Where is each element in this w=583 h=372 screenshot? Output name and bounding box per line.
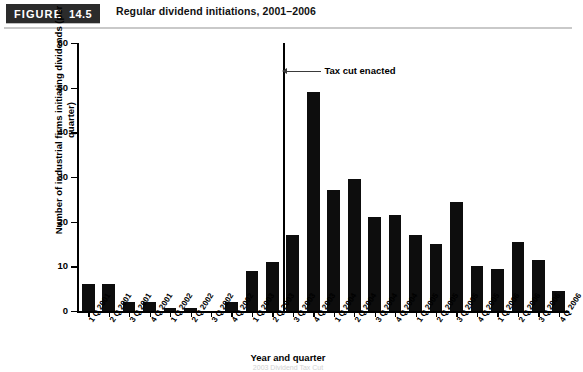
bar-series xyxy=(78,43,569,311)
y-axis-tick xyxy=(71,177,77,178)
figure-header: FIGURE 14.5 Regular dividend initiations… xyxy=(0,0,576,30)
y-axis-tick-label: 30 xyxy=(28,171,68,182)
tax-cut-annotation-label: Tax cut enacted xyxy=(324,65,395,76)
y-axis-tick-labels: 0102030405060 xyxy=(22,30,68,330)
bar xyxy=(82,284,95,311)
y-axis-tick-label: 60 xyxy=(28,37,68,48)
tax-cut-leader-line xyxy=(285,71,321,72)
tax-cut-marker-line xyxy=(283,43,284,312)
y-axis-tick xyxy=(71,311,77,312)
y-axis-tick-label: 40 xyxy=(28,126,68,137)
y-axis-tick-label: 0 xyxy=(28,305,68,316)
source-note: 2003 Dividend Tax Cut xyxy=(0,364,576,372)
figure-title: Regular dividend initiations, 2001–2006 xyxy=(116,5,316,17)
y-axis-tick xyxy=(71,43,77,44)
y-axis-tick xyxy=(71,88,77,89)
chart-plot-area: Number of industrial firms initiating di… xyxy=(0,30,576,372)
bar xyxy=(307,92,320,311)
y-axis-tick xyxy=(71,132,77,133)
y-axis-tick-label: 10 xyxy=(28,260,68,271)
x-axis-title: Year and quarter xyxy=(0,352,576,363)
y-axis-tick xyxy=(71,266,77,267)
y-axis-tick-label: 20 xyxy=(28,216,68,227)
header-divider xyxy=(4,27,572,29)
tax-cut-arrow-icon xyxy=(282,68,287,74)
y-axis-tick xyxy=(71,222,77,223)
y-axis-tick-label: 50 xyxy=(28,82,68,93)
